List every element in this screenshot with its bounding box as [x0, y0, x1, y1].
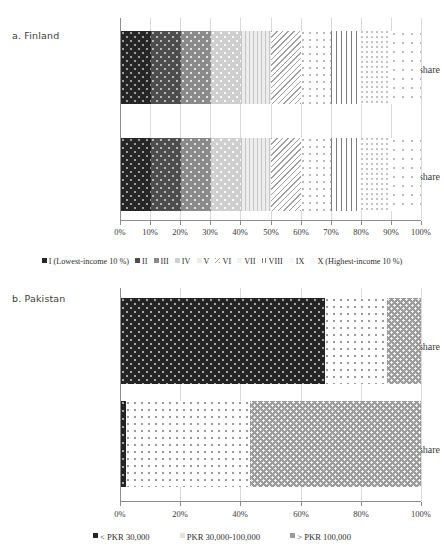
legend-swatch-icon	[262, 258, 267, 263]
panel-title-finland: a. Finland	[12, 30, 59, 41]
legend-swatch-icon	[42, 258, 47, 263]
bar-finland-housing-units-share	[121, 138, 421, 211]
legend-item-pkr-above-100000: > PKR 100,000	[290, 531, 351, 542]
segment-decile-v	[241, 138, 271, 211]
x-tickmark	[240, 502, 241, 506]
legend-label: VIII	[269, 257, 283, 266]
segment-decile-x	[391, 138, 421, 211]
x-tick-label: 60%	[281, 509, 321, 519]
segment-decile-vi	[271, 31, 301, 104]
segment-decile-iii	[181, 31, 211, 104]
x-tick-label: 40%	[220, 509, 260, 519]
legend-label: IX	[296, 257, 305, 266]
legend-item-decile-iii: III	[154, 256, 169, 266]
legend-label: IV	[182, 257, 191, 266]
x-tickmark	[301, 502, 302, 506]
segment-decile-viii	[331, 31, 361, 104]
legend-item-decile-ix: IX	[289, 256, 305, 266]
gridline-100	[421, 288, 422, 501]
x-tickmark	[180, 221, 181, 225]
legend-swatch-icon	[289, 258, 294, 263]
x-tick-label: 20%	[160, 509, 200, 519]
x-tickmark	[120, 221, 121, 225]
x-tickmark	[120, 502, 121, 506]
legend-swatch-icon	[197, 258, 202, 263]
x-tick-label: 100%	[401, 227, 441, 237]
legend-label: III	[161, 257, 169, 266]
x-tickmark	[421, 502, 422, 506]
legend-label: V	[204, 257, 210, 266]
segment-decile-ix	[361, 31, 391, 104]
segment-pkr-30000-100000	[325, 298, 387, 384]
x-tickmark	[391, 221, 392, 225]
segment-decile-ii	[151, 138, 181, 211]
legend-item-pkr-below-30000: < PKR 30,000	[93, 531, 150, 542]
segment-decile-iv	[211, 31, 241, 104]
legend-label: < PKR 30,000	[100, 532, 150, 542]
legend-item-pkr-30000-100000: PKR 30,000-100,000	[180, 531, 260, 542]
segment-decile-ii	[151, 31, 181, 104]
segment-decile-i	[121, 138, 151, 211]
legend-label: X (Highest-income 10 %)	[317, 257, 402, 266]
x-tick-label: 100%	[401, 509, 441, 519]
x-tickmark	[361, 502, 362, 506]
legend-label: II	[142, 257, 147, 266]
legend-swatch-icon	[237, 258, 242, 263]
legend-item-decile-vii: VII	[237, 256, 255, 266]
x-tickmark	[421, 221, 422, 225]
legend-label: I (Lowest-income 10 %)	[49, 257, 129, 266]
x-tickmark	[331, 221, 332, 225]
legend-swatch-icon	[93, 533, 98, 538]
segment-decile-iii	[181, 138, 211, 211]
legend-item-decile-v: V	[197, 256, 210, 266]
bar-pakistan-household-share	[121, 298, 421, 384]
x-tickmark	[180, 502, 181, 506]
segment-pkr-30000-100000	[126, 401, 251, 487]
x-tick-label: 0%	[100, 509, 140, 519]
segment-decile-i	[121, 31, 151, 104]
segment-decile-v	[241, 31, 271, 104]
x-axis-line	[120, 501, 421, 502]
legend-swatch-icon	[310, 258, 315, 263]
legend-item-decile-viii: VIII	[262, 256, 283, 266]
legend-pakistan: < PKR 30,000 PKR 30,000-100,000 > PKR 10…	[0, 530, 444, 542]
segment-pkr-below-30000	[121, 298, 325, 384]
legend-label: PKR 30,000-100,000	[187, 532, 260, 542]
x-tick-label: 80%	[341, 509, 381, 519]
legend-finland: I (Lowest-income 10 %) II III IV V VI VI…	[0, 256, 444, 266]
segment-decile-vii	[301, 31, 331, 104]
chart-panel-finland: a. Finland Household share Housing (unit…	[0, 0, 444, 282]
x-tickmark	[150, 221, 151, 225]
segment-pkr-above-100000	[387, 298, 422, 384]
x-tickmark	[361, 221, 362, 225]
bar-pakistan-housing-units-share	[121, 401, 421, 487]
segment-decile-vi	[271, 138, 301, 211]
x-tickmark	[271, 221, 272, 225]
chart-panel-pakistan: b. Pakistan Household share Housing (uni…	[0, 283, 444, 557]
legend-swatch-icon	[290, 533, 295, 538]
segment-decile-x	[391, 31, 421, 104]
bar-finland-household-share	[121, 31, 421, 104]
legend-item-decile-i: I (Lowest-income 10 %)	[42, 256, 129, 266]
legend-item-decile-x: X (Highest-income 10 %)	[310, 256, 402, 266]
panel-title-pakistan: b. Pakistan	[12, 293, 66, 304]
x-tickmark	[240, 221, 241, 225]
segment-decile-vii	[301, 138, 331, 211]
legend-item-decile-ii: II	[135, 256, 147, 266]
segment-decile-ix	[361, 138, 391, 211]
legend-swatch-icon	[215, 258, 220, 263]
legend-swatch-icon	[180, 533, 185, 538]
legend-swatch-icon	[135, 258, 140, 263]
legend-item-decile-vi: VI	[215, 256, 231, 266]
segment-decile-viii	[331, 138, 361, 211]
segment-decile-iv	[211, 138, 241, 211]
legend-item-decile-iv: IV	[175, 256, 191, 266]
legend-label: > PKR 100,000	[297, 532, 351, 542]
legend-swatch-icon	[154, 258, 159, 263]
legend-swatch-icon	[175, 258, 180, 263]
segment-pkr-above-100000	[250, 401, 421, 487]
x-tickmark	[210, 221, 211, 225]
legend-label: VII	[244, 257, 255, 266]
x-tickmark	[301, 221, 302, 225]
legend-label: VI	[222, 257, 231, 266]
